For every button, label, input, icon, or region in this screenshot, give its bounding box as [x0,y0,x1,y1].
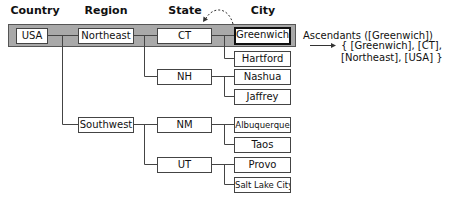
result-arrow-icon [310,43,336,48]
node-jaffrey: Jaffrey [234,89,291,105]
node-usa: USA [16,28,48,44]
annotation-result-line1: { [Greenwich], [CT], [341,40,442,52]
node-southwest: Southwest [78,117,134,133]
node-hartford: Hartford [234,51,291,67]
node-northeast: Northeast [78,28,134,44]
node-nh: NH [157,69,212,85]
node-ct: CT [157,28,212,44]
node-ut: UT [157,157,212,173]
node-nashua: Nashua [234,69,291,85]
node-greenwich: Greenwich [234,27,291,45]
annotation-result-line2: [Northeast], [USA] } [341,52,443,64]
node-albuquerque: Albuquerque [234,117,291,133]
node-provo: Provo [234,157,291,173]
ascend-arrow-icon [203,10,233,24]
node-salt-lake-city: Salt Lake City [234,177,291,193]
node-taos: Taos [234,137,291,153]
node-nm: NM [157,117,212,133]
